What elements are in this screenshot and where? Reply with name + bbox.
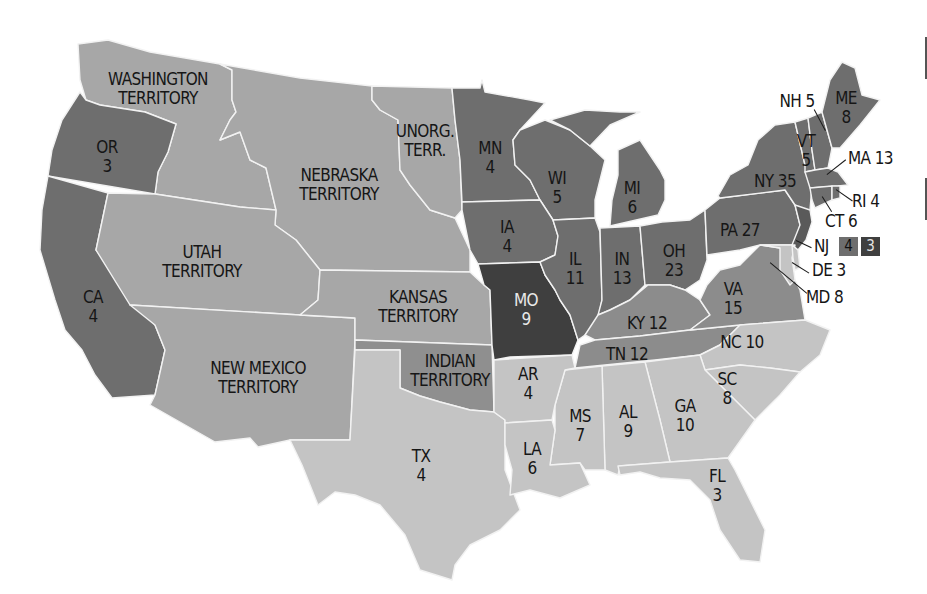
electoral-votes: 6 [523, 459, 541, 478]
label-florida: FL3 [709, 467, 725, 505]
region-name: INDIAN [410, 352, 490, 371]
electoral-votes: 3 [96, 157, 117, 176]
electoral-votes: 4 [518, 384, 538, 403]
label-michigan: MI6 [624, 179, 641, 217]
label-minnesota: MN4 [478, 139, 501, 177]
electoral-votes: 3 [709, 486, 725, 505]
label-vermont: VT5 [797, 132, 816, 170]
label-tennessee: TN 12 [606, 345, 648, 364]
electoral-votes: 11 [566, 269, 584, 288]
region-name: ME [835, 89, 857, 108]
region-name: WASHINGTON [108, 70, 208, 89]
region-name-line2: TERRITORY [410, 371, 490, 390]
region-name: MN [478, 139, 501, 158]
region-name: UTAH [162, 243, 242, 262]
region-name: AL [619, 403, 637, 422]
region-name: VT [797, 132, 816, 151]
region-massachusetts[interactable] [805, 168, 848, 188]
label-indiana: IN13 [613, 250, 631, 288]
label-connecticut: CT 6 [825, 212, 857, 231]
label-new-york: NY 35 [754, 172, 796, 191]
label-new-mexico-territory: NEW MEXICOTERRITORY [210, 359, 306, 397]
region-name-line2: TERRITORY [210, 378, 306, 397]
label-new-jersey: NJ [814, 237, 829, 256]
label-arkansas: AR4 [518, 365, 538, 403]
label-maine: ME8 [835, 89, 857, 127]
nj-split-vote-chip-b: 3 [861, 237, 880, 256]
region-name: IA [500, 218, 514, 237]
region-name: IN [613, 250, 631, 269]
label-wisconsin: WI5 [548, 169, 566, 207]
electoral-votes: 5 [548, 188, 566, 207]
region-name: LA [523, 440, 541, 459]
electoral-votes: 5 [797, 151, 816, 170]
nj-split-vote-chip-a: 4 [839, 237, 858, 256]
electoral-votes: 10 [674, 416, 695, 435]
region-name: IL [566, 250, 584, 269]
label-oregon: OR3 [96, 138, 117, 176]
label-kansas-territory: KANSASTERRITORY [378, 288, 458, 326]
electoral-votes: 4 [478, 158, 501, 177]
region-name: UNORG. [396, 122, 454, 141]
label-louisiana: LA6 [523, 440, 541, 478]
region-name: WI [548, 169, 566, 188]
region-name: GA [674, 397, 695, 416]
label-virginia: VA15 [724, 280, 743, 318]
label-mississippi: MS7 [569, 407, 591, 445]
label-missouri: MO9 [514, 291, 538, 329]
label-alabama: AL9 [619, 403, 637, 441]
label-illinois: IL11 [566, 250, 584, 288]
region-name: OR [96, 138, 117, 157]
electoral-votes: 6 [624, 198, 641, 217]
region-name-line2: TERR. [396, 141, 454, 160]
region-name-line2: TERRITORY [378, 307, 458, 326]
region-name: KANSAS [378, 288, 458, 307]
region-florida[interactable] [618, 458, 765, 562]
label-nebraska-territory: NEBRASKATERRITORY [299, 166, 379, 204]
label-california: CA4 [83, 288, 103, 326]
region-name: OH [663, 242, 685, 261]
electoral-votes: 15 [724, 299, 743, 318]
region-name: MI [624, 179, 641, 198]
region-name: TX [412, 447, 431, 466]
electoral-votes: 8 [835, 108, 857, 127]
region-name: CA [83, 288, 103, 307]
label-georgia: GA10 [674, 397, 695, 435]
label-new-hampshire: NH 5 [779, 92, 814, 111]
region-name: FL [709, 467, 725, 486]
electoral-votes: 4 [83, 307, 103, 326]
region-name-line2: TERRITORY [108, 89, 208, 108]
region-name: MS [569, 407, 591, 426]
label-massachusetts: MA 13 [848, 149, 893, 168]
region-name: MO [514, 291, 538, 310]
label-washington-territory: WASHINGTONTERRITORY [108, 70, 208, 108]
region-name-line2: TERRITORY [162, 262, 242, 281]
electoral-votes: 9 [514, 310, 538, 329]
region-name: NEW MEXICO [210, 359, 306, 378]
electoral-votes: 9 [619, 422, 637, 441]
region-name: SC [717, 370, 736, 389]
electoral-votes: 8 [717, 389, 736, 408]
label-texas: TX4 [412, 447, 431, 485]
label-iowa: IA4 [500, 218, 514, 256]
label-indian-territory: INDIANTERRITORY [410, 352, 490, 390]
electoral-votes: 4 [500, 237, 514, 256]
electoral-votes: 23 [663, 261, 685, 280]
label-rhode-island: RI 4 [852, 192, 879, 211]
label-ohio: OH23 [663, 242, 685, 280]
electoral-votes: 4 [412, 466, 431, 485]
region-name-line2: TERRITORY [299, 185, 379, 204]
region-name: NEBRASKA [299, 166, 379, 185]
label-unorganized-territory: UNORG.TERR. [396, 122, 454, 160]
electoral-votes: 13 [613, 269, 631, 288]
region-name: VA [724, 280, 743, 299]
label-kentucky: KY 12 [627, 314, 667, 333]
label-maryland: MD 8 [806, 288, 843, 307]
label-utah-territory: UTAHTERRITORY [162, 243, 242, 281]
label-north-carolina: NC 10 [720, 333, 763, 352]
label-delaware: DE 3 [812, 261, 846, 280]
label-pennsylvania: PA 27 [720, 221, 760, 240]
label-south-carolina: SC8 [717, 370, 736, 408]
region-name: AR [518, 365, 538, 384]
electoral-votes: 7 [569, 426, 591, 445]
